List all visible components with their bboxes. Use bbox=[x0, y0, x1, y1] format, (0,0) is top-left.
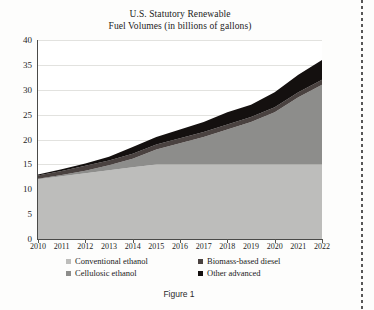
x-tick-mark bbox=[180, 239, 181, 243]
y-tick-label: 10 bbox=[8, 184, 32, 194]
legend-label: Biomass-based diesel bbox=[207, 256, 280, 266]
x-tick-mark bbox=[38, 239, 39, 243]
chart-title-line-2: Fuel Volumes (in billions of gallons) bbox=[40, 20, 320, 32]
legend-label: Cellulosic ethanol bbox=[75, 268, 137, 278]
figure-caption: Figure 1 bbox=[0, 289, 358, 299]
x-tick-mark bbox=[133, 239, 134, 243]
legend-swatch-icon bbox=[66, 271, 71, 276]
chart-title-line-1: U.S. Statutory Renewable bbox=[40, 8, 320, 20]
area-series-conventional-ethanol bbox=[38, 164, 322, 239]
chart-legend: Conventional ethanolBiomass-based diesel… bbox=[66, 256, 316, 278]
y-tick-label: 15 bbox=[8, 159, 32, 169]
y-tick-label: 35 bbox=[8, 60, 32, 70]
x-tick-mark bbox=[275, 239, 276, 243]
x-tick-mark bbox=[85, 239, 86, 243]
legend-item: Biomass-based diesel bbox=[198, 256, 316, 266]
y-tick-label: 25 bbox=[8, 110, 32, 120]
legend-item: Conventional ethanol bbox=[66, 256, 198, 266]
x-tick-mark bbox=[322, 239, 323, 243]
legend-label: Conventional ethanol bbox=[75, 256, 148, 266]
y-tick-label: 40 bbox=[8, 35, 32, 45]
legend-label: Other advanced bbox=[207, 268, 261, 278]
y-tick-label: 30 bbox=[8, 85, 32, 95]
legend-swatch-icon bbox=[66, 259, 71, 264]
y-axis-line bbox=[37, 40, 38, 240]
chart-title: U.S. Statutory Renewable Fuel Volumes (i… bbox=[40, 8, 320, 32]
figure-container: U.S. Statutory Renewable Fuel Volumes (i… bbox=[0, 0, 358, 310]
area-chart-svg bbox=[38, 40, 322, 239]
stacked-area-layers bbox=[38, 40, 322, 239]
legend-swatch-icon bbox=[198, 271, 203, 276]
page-edge-dotted-rule bbox=[361, 0, 363, 310]
legend-item: Cellulosic ethanol bbox=[66, 268, 198, 278]
y-tick-label: 20 bbox=[8, 135, 32, 145]
x-tick-mark bbox=[227, 239, 228, 243]
legend-swatch-icon bbox=[198, 259, 203, 264]
x-tick-label: 2022 bbox=[307, 242, 337, 251]
plot-area bbox=[38, 40, 322, 239]
y-tick-label: 5 bbox=[8, 209, 32, 219]
legend-item: Other advanced bbox=[198, 268, 316, 278]
